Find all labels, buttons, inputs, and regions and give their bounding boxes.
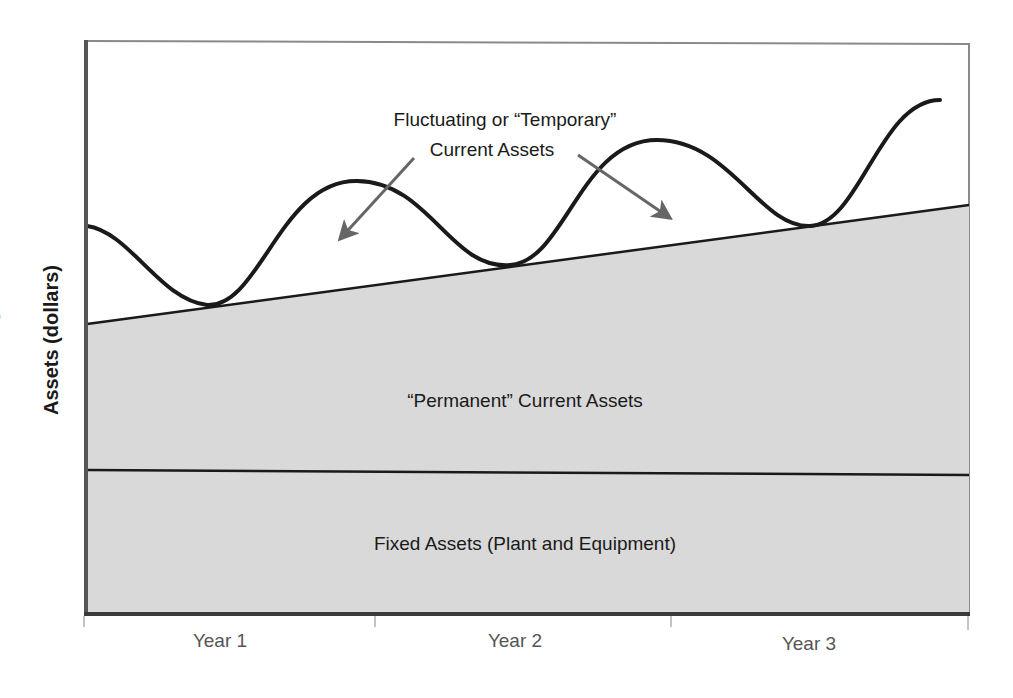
fixed-assets-label: Fixed Assets (Plant and Equipment) (374, 533, 676, 554)
edge-text-fragment: s (0, 311, 4, 322)
x-tick-label-year2: Year 2 (488, 630, 542, 651)
y-axis-label: Assets (dollars) (40, 265, 62, 415)
arrow-left-icon (340, 158, 414, 239)
x-tick-label-year3: Year 3 (782, 633, 836, 654)
permanent-assets-label: “Permanent” Current Assets (407, 390, 642, 411)
fluctuating-assets-label-line1: Fluctuating or “Temporary” (394, 109, 617, 130)
assets-diagram: s Year 1 Year 2 Year 3 Assets (dollars) … (0, 0, 1013, 698)
arrow-right-icon (578, 155, 670, 218)
frame-top (86, 41, 970, 44)
x-tick-label-year1: Year 1 (193, 630, 247, 651)
fluctuating-assets-label-line2: Current Assets (430, 139, 555, 160)
